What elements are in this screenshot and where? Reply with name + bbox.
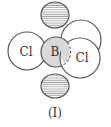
label-boron: B: [51, 45, 60, 59]
p-orbital-lobe-bottom: [41, 74, 69, 98]
label-cl-left: Cl: [19, 45, 32, 59]
label-cl-right: Cl: [75, 51, 88, 65]
figure-caption: (I): [48, 106, 62, 120]
bcl3-orbital-diagram: Cl B Cl (I): [0, 0, 111, 127]
p-orbital-lobe-top: [41, 2, 69, 28]
